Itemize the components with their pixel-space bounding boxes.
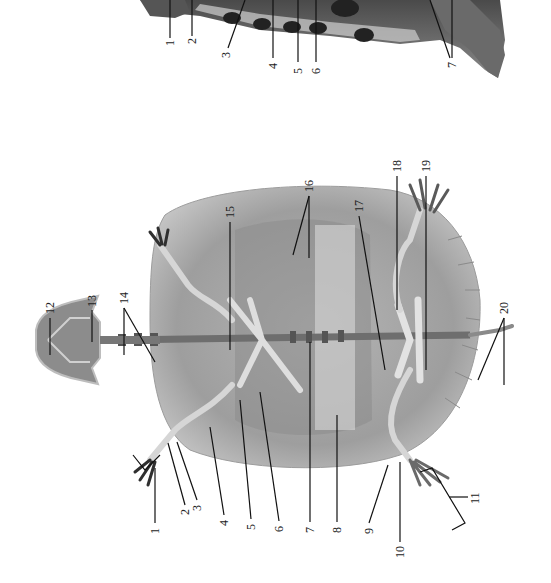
bottom-specimen xyxy=(36,180,512,485)
label-13: 13 xyxy=(85,295,99,307)
turtle-anatomy-figure: 1 2 3 4 5 6 7 1 2 3 4 5 6 7 8 9 10 11 12… xyxy=(0,0,551,583)
label-11: 11 xyxy=(468,492,482,504)
label-9: 9 xyxy=(362,528,376,534)
top-label-4: 4 xyxy=(266,63,280,69)
label-1: 1 xyxy=(148,528,162,534)
label-4: 4 xyxy=(217,520,231,526)
label-5: 5 xyxy=(244,524,258,530)
top-label-7: 7 xyxy=(445,62,459,68)
label-10: 10 xyxy=(393,546,407,558)
top-head xyxy=(140,0,190,18)
label-18: 18 xyxy=(390,160,404,172)
top-labels: 1 2 3 4 5 6 7 xyxy=(163,38,459,74)
top-label-6: 6 xyxy=(309,68,323,74)
top-label-3: 3 xyxy=(219,52,233,58)
label-14: 14 xyxy=(117,292,131,304)
label-3: 3 xyxy=(190,505,204,511)
top-label-1: 1 xyxy=(163,40,177,46)
label-19: 19 xyxy=(419,160,433,172)
label-7: 7 xyxy=(303,527,317,533)
top-label-5: 5 xyxy=(291,68,305,74)
label-15: 15 xyxy=(223,206,237,218)
hindlimb-toes-lower xyxy=(410,460,448,485)
label-17: 17 xyxy=(352,200,366,212)
top-label-2: 2 xyxy=(185,38,199,44)
rib-region xyxy=(315,225,355,430)
label-16: 16 xyxy=(302,180,316,192)
label-8: 8 xyxy=(330,527,344,533)
label-6: 6 xyxy=(272,526,286,532)
label-20: 20 xyxy=(497,302,511,314)
label-12: 12 xyxy=(43,302,57,314)
